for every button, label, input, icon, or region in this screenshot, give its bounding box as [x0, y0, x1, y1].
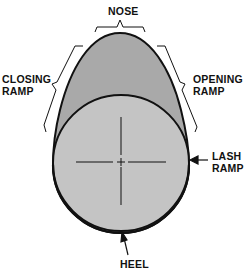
heel-label: HEEL [120, 258, 149, 270]
closing-ramp-label: CLOSING RAMP [2, 73, 51, 97]
nose-brace [95, 20, 145, 32]
lash-ramp-label: LASH RAMP [212, 150, 244, 174]
lash-ramp-arrow [190, 156, 208, 164]
nose-label: NOSE [108, 5, 139, 17]
cam-diagram [0, 0, 244, 273]
opening-ramp-label: OPENING RAMP [193, 73, 243, 97]
heel-arrow [121, 232, 128, 255]
